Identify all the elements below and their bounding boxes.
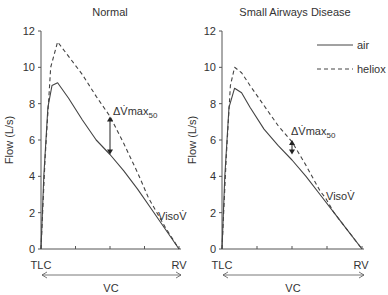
panel-normal: Normal Flow (L/s) 024681012 TLC RV VC ΔV… bbox=[3, 6, 187, 294]
delta-label: ΔV̇max bbox=[291, 125, 327, 137]
curves bbox=[222, 67, 362, 249]
rv-label: RV bbox=[171, 259, 187, 271]
y-tick-label: 4 bbox=[29, 170, 35, 182]
svg-text:ΔV̇max50: ΔV̇max50 bbox=[113, 105, 158, 120]
tlc-label: TLC bbox=[31, 259, 52, 271]
y-tick-label: 4 bbox=[210, 170, 216, 182]
delta-subscript: 50 bbox=[148, 111, 157, 120]
y-tick-label: 0 bbox=[29, 243, 35, 255]
delta-vmax-annotation: ΔV̇max50 bbox=[291, 125, 336, 140]
figure: Normal Flow (L/s) 024681012 TLC RV VC ΔV… bbox=[0, 0, 388, 295]
y-tick-label: 10 bbox=[204, 61, 216, 73]
y-tick-label: 2 bbox=[210, 207, 216, 219]
y-tick-label: 12 bbox=[23, 25, 35, 37]
legend-air-label: air bbox=[357, 39, 370, 51]
y-tick-label: 8 bbox=[210, 98, 216, 110]
legend-heliox-label: heliox bbox=[357, 63, 386, 75]
y-tick-label: 8 bbox=[29, 98, 35, 110]
vc-double-arrow bbox=[223, 272, 364, 278]
curve-air bbox=[41, 83, 179, 249]
panel-title: Small Airways Disease bbox=[239, 6, 350, 18]
x-axis-label: VC bbox=[285, 282, 300, 294]
delta-vmax-annotation: ΔV̇max50 bbox=[113, 105, 158, 120]
curve-air bbox=[222, 88, 362, 249]
y-axis-label: Flow (L/s) bbox=[3, 116, 15, 164]
tlc-label: TLC bbox=[212, 259, 233, 271]
y-tick-label: 12 bbox=[204, 25, 216, 37]
panel-title: Normal bbox=[92, 6, 127, 18]
y-tick-label: 6 bbox=[29, 134, 35, 146]
vc-double-arrow bbox=[42, 272, 181, 278]
iso-volume-label: VisoV̇ bbox=[158, 210, 187, 222]
delta-label: ΔV̇max bbox=[113, 105, 149, 117]
y-tick-label: 6 bbox=[210, 134, 216, 146]
y-axis-label: Flow (L/s) bbox=[186, 116, 198, 164]
panel-small-airways-disease: Small Airways Disease Flow (L/s) 0246810… bbox=[186, 6, 386, 294]
delta-subscript: 50 bbox=[326, 131, 335, 140]
rv-label: RV bbox=[353, 259, 369, 271]
y-tick-label: 0 bbox=[210, 243, 216, 255]
svg-text:ΔV̇max50: ΔV̇max50 bbox=[291, 125, 336, 140]
y-tick-label: 10 bbox=[23, 61, 35, 73]
iso-volume-label: VisoV̇ bbox=[326, 190, 355, 202]
x-axis-label: VC bbox=[103, 282, 118, 294]
y-tick-label: 2 bbox=[29, 207, 35, 219]
legend: air heliox bbox=[317, 39, 386, 75]
